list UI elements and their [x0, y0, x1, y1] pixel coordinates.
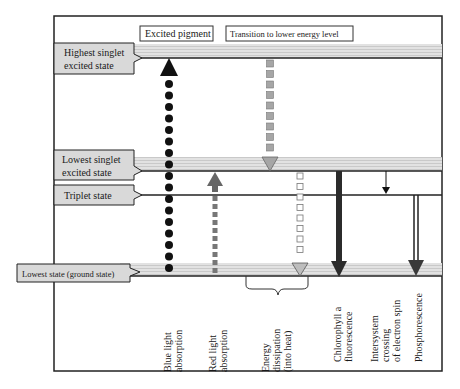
state-label-highest-2: excited state — [64, 60, 114, 71]
state-label-highest-1: Highest singlet — [64, 47, 124, 58]
process-label-isc: Intersystemcrossingof electron spin — [369, 300, 402, 362]
state-label-lowest-singlet-2: excited state — [62, 167, 112, 178]
process-label-blue: Blue lightabsorption — [162, 330, 184, 372]
process-label-heat: Energydissipation(into heat) — [260, 329, 293, 372]
process-label-red: Red lightabsorption — [207, 330, 229, 372]
state-label-ground: Lowest state (ground state) — [22, 269, 114, 279]
state-label-triplet: Triplet state — [64, 190, 112, 201]
band-highest-singlet — [120, 44, 442, 58]
jablonski-diagram: Excited pigment Transition to lower ener… — [0, 0, 460, 389]
label-transition: Transition to lower energy level — [230, 29, 339, 39]
process-label-phosphorescence: Phosphorescence — [413, 293, 424, 362]
label-excited-pigment: Excited pigment — [145, 28, 211, 39]
process-label-fluorescence: Chlorophyll afluorescence — [332, 307, 354, 362]
state-label-lowest-singlet-1: Lowest singlet — [62, 154, 121, 165]
